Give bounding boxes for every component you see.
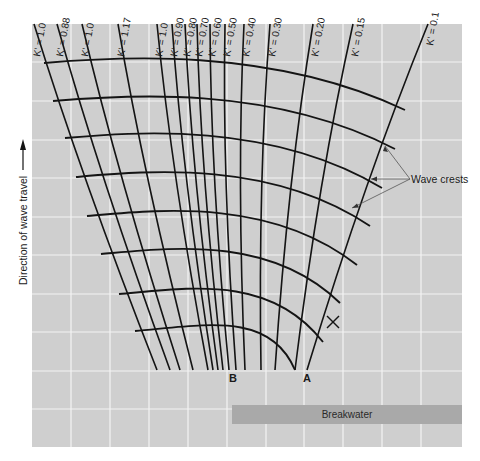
breakwater-label: Breakwater — [322, 409, 373, 420]
arrow-up-icon — [20, 139, 26, 150]
direction-axis: Direction of wave travel — [17, 139, 29, 285]
wave-crests-label: Wave crests — [411, 173, 468, 185]
wave-diffraction-diagram: Breakwater K' = 1.0K' = 0.88K' = 1.0K' =… — [0, 0, 480, 461]
point-b-label: B — [229, 372, 237, 384]
point-a-label: A — [303, 372, 311, 384]
direction-of-wave-travel-label: Direction of wave travel — [17, 176, 29, 285]
diagram-background — [32, 24, 462, 447]
